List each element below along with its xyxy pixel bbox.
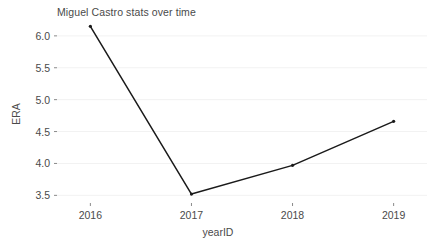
y-tick-mark-group [54,36,57,195]
era-series-line [90,26,393,194]
x-tick-mark-group [90,203,393,206]
era-data-point [291,164,294,167]
era-data-point-group [89,25,395,196]
plot-area [0,0,434,248]
era-data-point [190,192,193,195]
era-data-point [89,25,92,28]
gridline-group [57,36,427,195]
era-line-chart: Miguel Castro stats over time ERA yearID… [0,0,434,248]
era-data-point [392,120,395,123]
